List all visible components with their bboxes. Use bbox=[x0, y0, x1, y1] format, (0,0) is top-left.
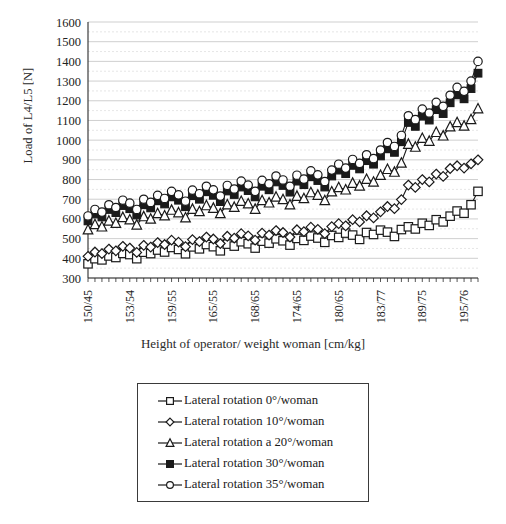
svg-text:300: 300 bbox=[62, 272, 81, 286]
open-circle-icon bbox=[157, 478, 183, 492]
legend-item-label: Lateral rotation a 20°/woman bbox=[184, 435, 333, 450]
svg-text:153/54: 153/54 bbox=[123, 290, 137, 323]
filled-square-icon bbox=[157, 457, 183, 471]
svg-text:900: 900 bbox=[62, 153, 81, 167]
svg-text:195/76: 195/76 bbox=[457, 290, 471, 323]
open-triangle-icon bbox=[157, 436, 183, 450]
svg-text:165/55: 165/55 bbox=[206, 290, 220, 323]
svg-text:500: 500 bbox=[62, 232, 81, 246]
x-axis-title: Height of operator/ weight woman [cm/kg] bbox=[0, 336, 506, 352]
svg-text:168/65: 168/65 bbox=[248, 290, 262, 323]
chart-legend: Lateral rotation 0°/woman Lateral rotati… bbox=[137, 383, 369, 502]
svg-text:1100: 1100 bbox=[56, 114, 81, 128]
svg-text:400: 400 bbox=[62, 252, 81, 266]
svg-text:174/65: 174/65 bbox=[290, 290, 304, 323]
svg-text:1300: 1300 bbox=[56, 75, 81, 89]
open-diamond-icon bbox=[157, 415, 183, 429]
series-open-triangle bbox=[83, 103, 483, 234]
svg-text:1200: 1200 bbox=[56, 94, 81, 108]
legend-item-4[interactable]: Lateral rotation 35°/woman bbox=[138, 474, 368, 495]
legend-item-label: Lateral rotation 0°/woman bbox=[184, 393, 318, 408]
legend-item-label: Lateral rotation 30°/woman bbox=[184, 456, 324, 471]
svg-text:1400: 1400 bbox=[56, 55, 81, 69]
legend-item-1[interactable]: Lateral rotation 10°/woman bbox=[138, 411, 368, 432]
svg-text:600: 600 bbox=[62, 212, 81, 226]
legend-item-label: Lateral rotation 35°/woman bbox=[184, 477, 324, 492]
svg-text:150/45: 150/45 bbox=[81, 290, 95, 323]
svg-text:183/77: 183/77 bbox=[374, 290, 388, 323]
svg-text:159/55: 159/55 bbox=[165, 290, 179, 323]
legend-item-0[interactable]: Lateral rotation 0°/woman bbox=[138, 390, 368, 411]
svg-text:700: 700 bbox=[62, 193, 81, 207]
y-axis-title: Load of L4/L5 [N] bbox=[21, 16, 36, 216]
svg-text:1500: 1500 bbox=[56, 35, 81, 49]
svg-text:1000: 1000 bbox=[56, 134, 81, 148]
svg-text:800: 800 bbox=[62, 173, 81, 187]
chart-figure: 1600150014001300120011001000900800700600… bbox=[0, 0, 506, 524]
svg-text:1600: 1600 bbox=[56, 16, 81, 30]
legend-item-3[interactable]: Lateral rotation 30°/woman bbox=[138, 453, 368, 474]
open-square-icon bbox=[157, 394, 183, 408]
legend-item-2[interactable]: Lateral rotation a 20°/woman bbox=[138, 432, 368, 453]
line-chart-svg: 1600150014001300120011001000900800700600… bbox=[0, 0, 506, 370]
legend-item-label: Lateral rotation 10°/woman bbox=[184, 414, 324, 429]
svg-text:180/65: 180/65 bbox=[332, 290, 346, 323]
plot-area: 1600150014001300120011001000900800700600… bbox=[0, 0, 506, 370]
svg-text:189/75: 189/75 bbox=[415, 290, 429, 323]
